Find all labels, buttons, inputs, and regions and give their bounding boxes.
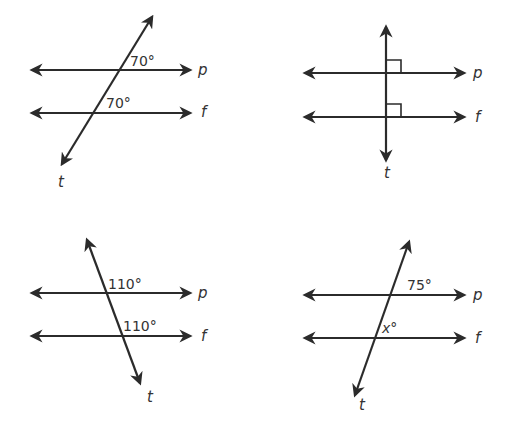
label-p: p xyxy=(472,64,483,82)
label-t: t xyxy=(384,164,391,182)
label-t: t xyxy=(58,173,65,191)
diagram-top-right: p f t xyxy=(305,27,483,182)
angle-label-p: 75° xyxy=(407,277,432,293)
label-f: f xyxy=(201,327,209,345)
diagram-bottom-left: 110° 110° p f t xyxy=(32,240,209,406)
angle-label-f: 110° xyxy=(123,318,157,334)
label-f: f xyxy=(201,103,209,121)
label-t: t xyxy=(359,396,366,414)
right-angle-mark-f xyxy=(386,104,401,117)
diagram-bottom-right: 75° x° p f t xyxy=(305,242,483,414)
parallel-lines-figure: 70° 70° p f t p f t 110° 110° p f t 75° … xyxy=(0,0,505,421)
label-p: p xyxy=(197,284,208,302)
transversal-t xyxy=(355,242,409,395)
angle-label-f: 70° xyxy=(106,95,131,111)
label-p: p xyxy=(472,286,483,304)
angle-label-p: 70° xyxy=(130,53,155,69)
angle-label-f: x° xyxy=(381,320,397,336)
right-angle-mark-p xyxy=(386,60,401,73)
transversal-t xyxy=(87,240,140,383)
angle-label-p: 110° xyxy=(108,276,142,292)
diagram-top-left: 70° 70° p f t xyxy=(32,17,209,191)
label-t: t xyxy=(147,388,154,406)
label-p: p xyxy=(197,61,208,79)
label-f: f xyxy=(475,329,483,347)
label-f: f xyxy=(475,108,483,126)
transversal-t xyxy=(62,17,152,164)
